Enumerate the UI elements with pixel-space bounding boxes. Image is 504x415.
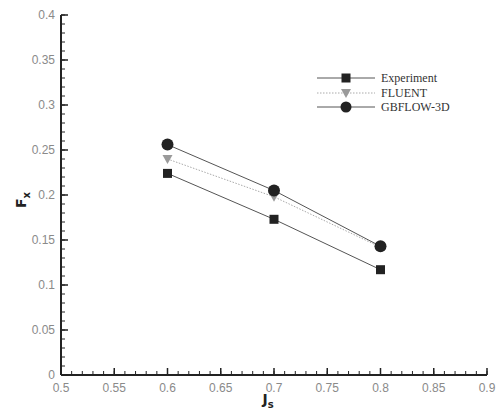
x-tick-label: 0.6 (159, 381, 176, 395)
legend-item: FLUENT (317, 86, 428, 100)
x-tick-label: 0.75 (316, 381, 340, 395)
x-tick-label: 0.7 (266, 381, 283, 395)
legend: ExperimentFLUENTGBFLOW-3D (317, 71, 450, 114)
x-tick-label: 0.9 (479, 381, 496, 395)
x-tick-label: 0.85 (422, 381, 446, 395)
series-fluent (163, 155, 386, 252)
x-tick-label: 0.55 (103, 381, 127, 395)
x-tick-label: 0.8 (372, 381, 389, 395)
legend-label: Experiment (381, 71, 438, 85)
y-tick-label: 0.05 (32, 323, 56, 337)
axes: 00.050.10.150.20.250.30.350.40.50.550.60… (32, 8, 496, 395)
y-tick-label: 0.1 (38, 278, 55, 292)
legend-item: Experiment (317, 71, 438, 85)
y-tick-label: 0.2 (38, 188, 55, 202)
x-tick-label: 0.5 (53, 381, 70, 395)
legend-label: GBFLOW-3D (381, 100, 450, 114)
y-axis-title: Fx (13, 191, 32, 208)
y-tick-label: 0.35 (32, 53, 56, 67)
y-tick-label: 0.4 (38, 8, 55, 22)
series-gbflow-3d (162, 139, 387, 253)
y-tick-label: 0.3 (38, 98, 55, 112)
y-tick-label: 0 (48, 368, 55, 382)
x-tick-label: 0.65 (209, 381, 233, 395)
chart: 00.050.10.150.20.250.30.350.40.50.550.60… (0, 0, 504, 415)
legend-label: FLUENT (381, 86, 428, 100)
y-tick-label: 0.15 (32, 233, 56, 247)
legend-item: GBFLOW-3D (317, 100, 450, 114)
y-tick-label: 0.25 (32, 143, 56, 157)
plot-series (162, 139, 387, 275)
